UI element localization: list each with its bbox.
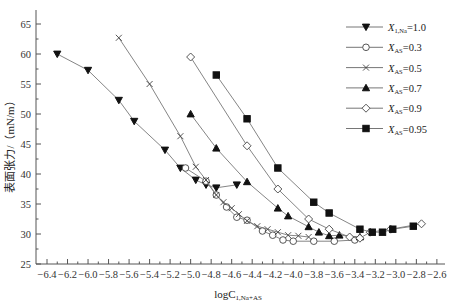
data-point <box>275 229 281 235</box>
data-point <box>275 165 281 171</box>
series-line <box>216 75 413 232</box>
series-line <box>57 54 237 188</box>
data-point <box>310 238 317 245</box>
legend-item: XAS=0.7 <box>346 83 422 95</box>
data-point <box>243 142 251 150</box>
data-point <box>244 116 250 122</box>
y-tick-label: 55 <box>21 79 32 90</box>
x-tick-label: −3.8 <box>304 269 323 280</box>
series-1 <box>182 165 358 245</box>
y-tick-label: 60 <box>21 49 32 60</box>
x-tick-label: −3.2 <box>366 269 385 280</box>
data-point <box>357 226 363 232</box>
x-tick-label: −2.6 <box>427 269 446 280</box>
x-tick-label: −3.4 <box>345 269 365 280</box>
y-tick-label: 50 <box>21 109 32 120</box>
series-3 <box>187 110 363 239</box>
x-tick-label: −5.2 <box>161 269 180 280</box>
legend-label: XAS=0.5 <box>387 63 422 75</box>
y-tick-label: 30 <box>21 229 32 240</box>
data-point <box>390 226 396 232</box>
x-axis-label-subscript: 1,Na+AS <box>236 294 262 302</box>
y-tick-label: 40 <box>21 169 32 180</box>
legend-label: X1,Na=1.0 <box>387 22 426 34</box>
data-point <box>220 199 226 205</box>
data-point <box>417 220 425 228</box>
legend-label-value: =0.9 <box>403 103 422 114</box>
legend-marker <box>363 44 370 51</box>
y-tick-label: 35 <box>21 199 32 210</box>
legend-item: X1,Na=1.0 <box>346 22 426 34</box>
data-point <box>116 35 122 41</box>
series-0 <box>54 51 241 191</box>
legend-label: XAS=0.9 <box>387 103 422 115</box>
series-line <box>191 114 360 237</box>
legend-label-value: =0.95 <box>403 124 427 135</box>
y-tick-label: 65 <box>21 19 32 30</box>
data-point <box>410 223 416 229</box>
data-point <box>147 81 153 87</box>
x-tick-label: −4.4 <box>243 269 263 280</box>
data-point <box>213 72 219 78</box>
legend-marker <box>363 125 369 131</box>
data-point <box>177 133 183 139</box>
x-tick-label: −3.0 <box>386 269 405 280</box>
legend-item: XAS=0.9 <box>346 103 422 115</box>
data-point <box>213 185 220 191</box>
x-tick-label: −4.8 <box>202 269 221 280</box>
data-point <box>285 212 292 218</box>
legend-label: XAS=0.3 <box>387 42 422 54</box>
legend-label-value: =1.0 <box>407 22 426 33</box>
y-axis-label: 表面张力/（mN/m） <box>3 95 16 192</box>
x-tick-label: −2.8 <box>407 269 426 280</box>
x-tick-label: −6.2 <box>58 269 77 280</box>
x-tick-label: −3.6 <box>325 269 344 280</box>
data-point <box>325 225 333 233</box>
legend-label-value: =0.3 <box>403 42 422 53</box>
legend-label: XAS=0.7 <box>387 83 422 95</box>
x-tick-label: −5.8 <box>99 269 118 280</box>
legend-label-value: =0.7 <box>403 83 422 94</box>
series-4 <box>187 53 426 242</box>
data-point <box>305 223 312 229</box>
x-tick-label: −6.4 <box>37 269 57 280</box>
x-tick-label: −4.6 <box>222 269 241 280</box>
x-axis-label: logC1,Na+AS <box>214 288 262 302</box>
legend-item: XAS=0.5 <box>346 63 422 75</box>
series-line <box>119 38 309 237</box>
data-point <box>193 164 199 170</box>
legend-item: XAS=0.95 <box>346 124 427 136</box>
legend-label: XAS=0.95 <box>387 124 427 136</box>
data-point <box>369 229 375 235</box>
x-tick-label: −5.6 <box>120 269 139 280</box>
data-point <box>187 53 195 61</box>
data-point <box>311 199 317 205</box>
legend-item: XAS=0.3 <box>346 42 422 54</box>
data-point <box>326 210 332 216</box>
x-tick-label: −4.0 <box>284 269 303 280</box>
y-ticks: 253035404550556065 <box>21 19 42 270</box>
legend-label-value: =0.5 <box>403 63 422 74</box>
legend-label-subscript: 1,Na <box>394 27 407 34</box>
legend: X1,Na=1.0XAS=0.3XAS=0.5XAS=0.7XAS=0.9XAS… <box>346 22 427 136</box>
data-point <box>115 97 122 103</box>
series-line <box>191 57 422 238</box>
line-chart: −6.4−6.2−6.0−5.8−5.6−5.4−5.2−5.0−4.8−4.6… <box>0 0 451 304</box>
y-tick-label: 25 <box>21 259 32 270</box>
x-ticks: −6.4−6.2−6.0−5.8−5.6−5.4−5.2−5.0−4.8−4.6… <box>37 259 446 280</box>
x-tick-label: −5.0 <box>181 269 200 280</box>
data-point <box>192 177 199 183</box>
series-2 <box>116 35 312 240</box>
x-tick-label: −6.0 <box>79 269 98 280</box>
data-point <box>182 165 189 172</box>
legend-marker <box>362 104 370 112</box>
y-tick-label: 45 <box>21 139 32 150</box>
data-point <box>315 229 322 235</box>
x-tick-label: −4.2 <box>263 269 282 280</box>
data-point <box>187 110 194 116</box>
x-tick-label: −5.4 <box>140 269 160 280</box>
data-point <box>379 229 385 235</box>
data-point <box>54 51 61 57</box>
series-5 <box>213 72 416 236</box>
